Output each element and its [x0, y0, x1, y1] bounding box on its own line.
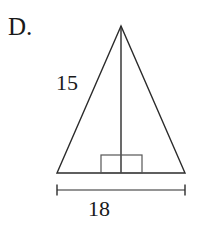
- base-length-label: 18: [0, 198, 198, 220]
- choice-letter: D.: [8, 14, 32, 39]
- slant-side-length-label: 15: [56, 72, 78, 94]
- figure-panel: D. 15 18: [0, 0, 198, 230]
